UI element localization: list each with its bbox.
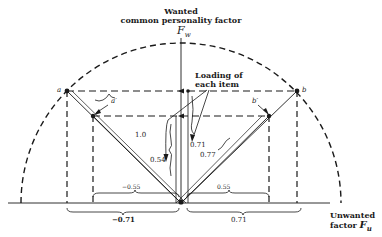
wanted-factor-symbol: Fw <box>177 25 191 41</box>
unwanted-factor-label-line2: factor Fu <box>330 220 372 233</box>
brace-pos-055 <box>187 190 269 197</box>
point-b <box>295 89 300 94</box>
label-unwanted-neg-055: −0.55 <box>122 183 140 190</box>
label-vector-length: 1.0 <box>135 131 146 139</box>
label-loading-054: 0.54 <box>150 156 166 164</box>
leader-to-071 <box>193 90 209 138</box>
point-aprime <box>91 114 95 118</box>
label-unwanted-neg-071: −0.71 <box>112 216 135 224</box>
point-bprime <box>267 114 271 118</box>
brace-pos-071 <box>187 208 301 215</box>
brace-neg-071 <box>67 208 179 215</box>
brace-077 <box>218 138 230 150</box>
label-a: a <box>57 86 61 94</box>
loading-annotation-line2: each item <box>195 80 239 89</box>
label-loading-071: 0.71 <box>190 141 206 149</box>
unwanted-factor-label-line1: Unwanted <box>330 211 375 220</box>
brace-054 <box>169 124 172 176</box>
point-origin <box>178 199 183 204</box>
label-b: b <box>302 86 306 94</box>
factor-rotation-diagram <box>0 0 382 237</box>
label-unwanted-pos-055: 0.55 <box>217 183 230 190</box>
label-vector-077: 0.77 <box>200 151 216 159</box>
label-bprime: b′ <box>252 97 258 105</box>
point-a <box>65 89 70 94</box>
brace-neg-055 <box>93 190 179 197</box>
label-aprime: a′ <box>111 97 117 105</box>
label-unwanted-pos-071: 0.71 <box>231 216 247 224</box>
